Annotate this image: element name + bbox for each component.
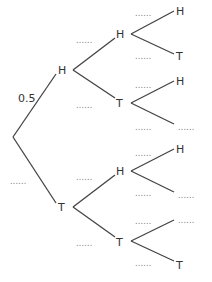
node-H: H [58,64,66,77]
node-TTT: T [175,259,183,272]
branch-TT-to-TTT [131,241,174,261]
prob-TTH: ...... [135,217,151,226]
node-TH: H [116,165,124,178]
prob-THH: ...... [135,149,151,158]
node-HTH: H [176,75,184,88]
node-THT: ...... [178,191,194,200]
prob-HHH: ...... [135,9,151,18]
prob-HTH: ...... [135,81,151,90]
node-HH: H [116,28,124,41]
prob-TT: ...... [76,239,92,248]
node-THH: H [176,143,184,156]
node-HHT: T [175,50,183,63]
node-HTT: ...... [178,123,194,132]
branch-root-to-H [13,74,56,137]
branch-H-to-HT [73,70,115,98]
prob-HHT: ...... [135,52,151,61]
branch-T-to-TT [73,207,115,237]
prob-HTT: ...... [135,123,151,132]
prob-T: ...... [10,177,26,186]
prob-TH: ...... [76,173,92,182]
branch-HH-to-HHT [131,34,174,54]
prob-HT: ...... [76,101,92,110]
branch-root-to-T [13,137,56,203]
node-HHH: H [176,5,184,18]
probability-tree-diagram: H T 0.5 ...... H T ...... ...... H T ...… [0,0,212,282]
node-HT: T [115,97,123,110]
prob-H: 0.5 [18,92,36,105]
node-TTH: ...... [178,216,194,225]
branch-HT-to-HTT [131,103,174,124]
prob-TTT: ...... [135,259,151,268]
node-T: T [57,201,65,214]
prob-THT: ...... [135,189,151,198]
prob-HH: ...... [76,36,92,45]
node-TT: T [115,236,123,249]
